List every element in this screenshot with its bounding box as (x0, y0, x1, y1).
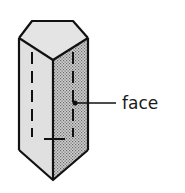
left-face (19, 38, 53, 180)
face-label: face (122, 93, 158, 113)
prism-diagram: face (0, 0, 185, 193)
shaded-face (53, 38, 88, 180)
